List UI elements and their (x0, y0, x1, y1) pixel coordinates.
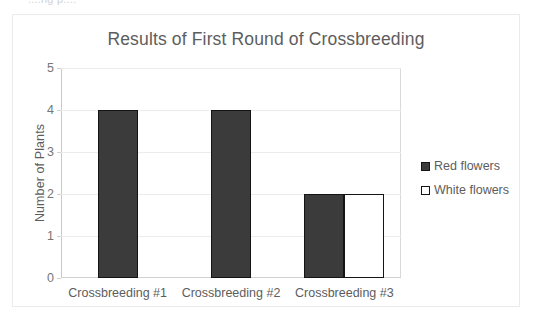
bar-group (61, 68, 174, 278)
bar-group (288, 68, 401, 278)
legend-label: White flowers (434, 183, 509, 197)
y-axis-tick-mark (57, 278, 61, 279)
y-axis-tick-label: 0 (47, 271, 54, 285)
plot-area-wrapper: 012345 Crossbreeding #1Crossbreeding #2C… (61, 68, 401, 278)
bar-red-flowers[interactable] (304, 194, 344, 278)
bar-group (174, 68, 287, 278)
y-axis-tick-label: 4 (47, 103, 54, 117)
x-axis-tick-label: Crossbreeding #1 (68, 286, 167, 300)
legend-label: Red flowers (434, 159, 500, 173)
legend-swatch-white-icon (421, 186, 430, 195)
x-axis-tick-label: Crossbreeding #2 (182, 286, 281, 300)
y-axis-tick-label: 5 (47, 61, 54, 75)
chart-legend: Red flowersWhite flowers (421, 159, 509, 197)
cutoff-text-sliver: ....ng p.... (0, 0, 533, 9)
chart-container: Results of First Round of Crossbreeding … (12, 14, 520, 307)
y-axis-tick-label: 1 (47, 229, 54, 243)
y-axis-tick-label: 3 (47, 145, 54, 159)
bar-red-flowers[interactable] (211, 110, 251, 278)
x-axis-tick-label: Crossbreeding #3 (295, 286, 394, 300)
legend-item[interactable]: Red flowers (421, 159, 509, 173)
legend-swatch-red-icon (421, 162, 430, 171)
chart-title: Results of First Round of Crossbreeding (13, 29, 519, 50)
bar-white-flowers[interactable] (344, 194, 384, 278)
y-axis-title: Number of Plants (31, 68, 49, 278)
legend-item[interactable]: White flowers (421, 183, 509, 197)
y-axis-title-label: Number of Plants (33, 124, 47, 222)
bar-red-flowers[interactable] (98, 110, 138, 278)
cutoff-text: ....ng p.... (28, 0, 76, 5)
y-axis-tick-label: 2 (47, 187, 54, 201)
